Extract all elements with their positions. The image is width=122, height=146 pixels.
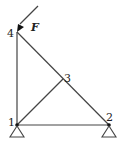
member-1-3	[17, 79, 63, 125]
pin-support-icon	[102, 126, 116, 137]
node-label-3: 3	[64, 72, 71, 85]
force-arrowhead-icon	[17, 24, 24, 32]
node-label-1: 1	[8, 116, 15, 129]
node-label-4: 4	[7, 27, 14, 40]
force-label: F	[30, 21, 40, 34]
node-label-2: 2	[106, 111, 113, 124]
truss-diagram: 1 2 3 4 F	[0, 0, 122, 146]
